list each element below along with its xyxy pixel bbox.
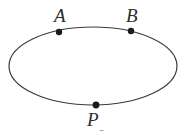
geometry-figure: A B Po xyxy=(0,0,184,131)
point-label-a: A xyxy=(54,6,66,25)
point-label-p-text: P xyxy=(87,109,99,130)
point-marker-a xyxy=(56,29,62,35)
point-marker-b xyxy=(128,28,134,34)
point-marker-p xyxy=(93,102,100,109)
point-label-p-subscript: o xyxy=(99,125,105,131)
point-label-p: Po xyxy=(87,110,104,131)
point-label-b: B xyxy=(126,6,138,25)
ellipse-outline xyxy=(9,27,177,105)
